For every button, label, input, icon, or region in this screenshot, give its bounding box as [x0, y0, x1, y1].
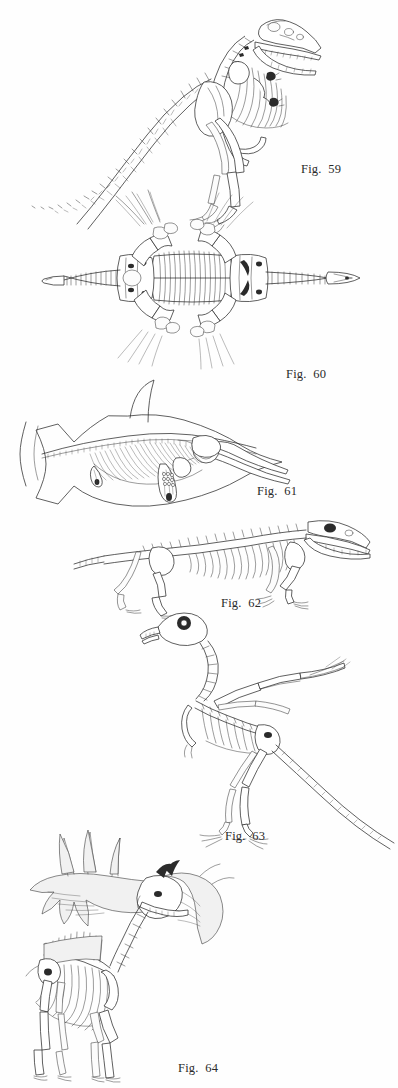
- skull-64: [137, 860, 188, 919]
- archaeopteryx-skeleton-drawing: [140, 605, 398, 845]
- flipper-lower-right: [190, 293, 236, 369]
- cynodont-skeleton-drawing: [68, 516, 378, 608]
- foreleg-64: [90, 1010, 120, 1082]
- neck-chain: [42, 270, 120, 286]
- fig-60-caption: Fig. 60: [286, 368, 326, 381]
- figure-fig-62: Fig. 62: [0, 512, 398, 610]
- figure-fig-61: Fig. 61: [0, 400, 398, 505]
- fig-63-illustration: [140, 605, 398, 845]
- figure-plate-page: Fig. 59: [0, 0, 398, 1088]
- hindleg-64: [34, 980, 71, 1081]
- fig-59-caption: Fig. 59: [301, 163, 341, 176]
- figure-fig-60: Fig. 60: [0, 218, 398, 390]
- plesiosaur-trunk: [150, 251, 234, 305]
- fig-59-illustration: [8, 4, 338, 212]
- irish-elk-skeleton-drawing: [14, 820, 276, 1082]
- pelvic-girdle: [230, 254, 268, 301]
- antler-left: [30, 830, 154, 926]
- figure-fig-63: Fig. 63: [0, 605, 398, 850]
- tail-chain: [266, 272, 360, 284]
- plesiosaur-skeleton-drawing: [22, 222, 384, 390]
- fig-61-caption: Fig. 61: [257, 485, 297, 498]
- figure-fig-64: Fig. 64: [0, 818, 398, 1088]
- ribcage-62: [189, 540, 296, 579]
- fig-64-caption: Fig. 64: [178, 1062, 218, 1075]
- skull-63: [140, 613, 207, 646]
- tyrannosaurus-skeleton-drawing: [8, 4, 338, 212]
- figure-fig-59: Fig. 59: [0, 0, 398, 215]
- fig-62-illustration: [68, 516, 378, 608]
- skull-62: [304, 521, 370, 559]
- fig-60-illustration: [22, 222, 384, 390]
- fig-64-illustration: [14, 820, 276, 1082]
- ribcage-63: [202, 709, 262, 751]
- neck-64: [110, 906, 148, 972]
